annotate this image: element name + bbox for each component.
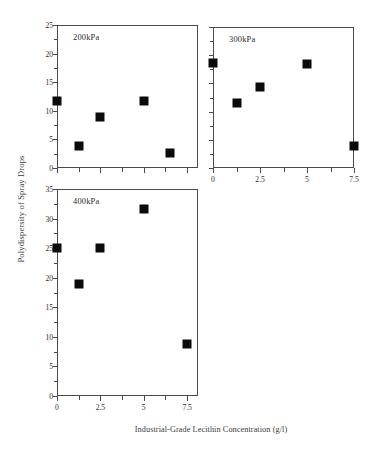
x-tick-label: 7.5: [349, 175, 359, 184]
y-tick: [209, 112, 214, 113]
x-tick: [144, 396, 145, 401]
y-tick-minor: [54, 381, 58, 382]
panel-200kpa: 200kPa 0510152025: [57, 25, 198, 168]
y-tick-label: 5: [49, 362, 53, 371]
panel-300kpa: 300kPa 02.557.5: [213, 27, 354, 168]
data-point: [53, 244, 62, 253]
x-tick: [100, 168, 101, 173]
y-tick-minor: [54, 322, 58, 323]
y-tick-minor: [210, 69, 214, 70]
data-point: [96, 244, 105, 253]
data-point: [303, 59, 312, 68]
panel-title-400kpa: 400kPa: [73, 197, 99, 206]
y-tick: [53, 366, 58, 367]
y-tick-label: 30: [45, 214, 53, 223]
data-point: [96, 112, 105, 121]
data-point: [165, 148, 174, 157]
x-tick: [144, 168, 145, 173]
y-tick-label: 0: [49, 164, 53, 173]
x-tick-label: 5: [142, 403, 146, 412]
y-tick-minor: [54, 293, 58, 294]
x-tick-label: 2.5: [255, 175, 265, 184]
x-tick: [57, 168, 58, 173]
x-tick-label: 5: [305, 175, 309, 184]
x-tick-label: 7.5: [182, 403, 192, 412]
y-tick-label: 10: [45, 332, 53, 341]
x-tick: [100, 396, 101, 401]
x-tick-label: 0: [211, 175, 215, 184]
panel-title-300kpa: 300kPa: [229, 35, 255, 44]
y-tick-label: 10: [45, 106, 53, 115]
x-tick: [354, 168, 355, 173]
data-point: [74, 141, 83, 150]
y-tick-minor: [210, 126, 214, 127]
y-tick-label: 35: [45, 185, 53, 194]
data-point: [232, 99, 241, 108]
data-point: [139, 204, 148, 213]
y-tick-label: 25: [45, 21, 53, 30]
data-point: [209, 59, 218, 68]
figure-container: Polydispersity of Spray Drops Industrial…: [0, 0, 371, 452]
x-tick-minor: [165, 168, 166, 172]
y-tick-minor: [54, 204, 58, 205]
x-tick-minor: [79, 396, 80, 400]
y-tick-label: 15: [45, 303, 53, 312]
x-tick-minor: [165, 396, 166, 400]
x-tick-minor: [79, 168, 80, 172]
y-tick-minor: [54, 233, 58, 234]
data-point: [350, 142, 359, 151]
y-tick-label: 15: [45, 78, 53, 87]
data-point: [139, 96, 148, 105]
x-tick: [260, 168, 261, 173]
y-tick-label: 20: [45, 273, 53, 282]
x-tick-label: 0: [55, 403, 59, 412]
y-tick-label: 5: [49, 135, 53, 144]
y-tick-minor: [54, 125, 58, 126]
data-point: [183, 339, 192, 348]
x-tick-minor: [237, 168, 238, 172]
data-point: [53, 96, 62, 105]
y-tick-label: 0: [49, 392, 53, 401]
plot-area-400kpa: [57, 189, 198, 396]
y-tick: [209, 55, 214, 56]
y-tick-minor: [210, 41, 214, 42]
y-tick-minor: [54, 68, 58, 69]
y-tick-minor: [210, 98, 214, 99]
x-tick-minor: [122, 168, 123, 172]
y-tick-minor: [54, 39, 58, 40]
x-tick: [213, 168, 214, 173]
y-axis-label: Polydispersity of Spray Drops: [16, 109, 26, 309]
data-point: [74, 279, 83, 288]
y-tick: [209, 83, 214, 84]
panel-400kpa: 400kPa 0510152025303502.557.5: [57, 189, 198, 396]
plot-area-300kpa: [213, 27, 354, 168]
y-tick: [53, 139, 58, 140]
y-tick-minor: [54, 352, 58, 353]
y-tick-minor: [54, 263, 58, 264]
x-tick-minor: [284, 168, 285, 172]
x-tick: [187, 168, 188, 173]
x-axis-label: Industrial-Grade Lecithin Concentration …: [96, 425, 326, 434]
data-point: [256, 83, 265, 92]
x-tick: [57, 396, 58, 401]
x-tick: [187, 396, 188, 401]
x-tick-label: 2.5: [96, 403, 106, 412]
x-tick-minor: [122, 396, 123, 400]
y-tick-label: 20: [45, 49, 53, 58]
x-tick: [307, 168, 308, 173]
y-tick-minor: [210, 154, 214, 155]
y-tick: [209, 27, 214, 28]
x-tick-minor: [331, 168, 332, 172]
panel-title-200kpa: 200kPa: [73, 33, 99, 42]
y-tick: [209, 140, 214, 141]
y-tick-minor: [54, 154, 58, 155]
